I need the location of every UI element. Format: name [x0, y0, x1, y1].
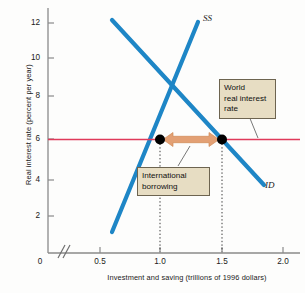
origin-label: 0: [33, 257, 47, 266]
investment-point-marker: [217, 135, 227, 145]
international-borrowing-arrow: [163, 133, 219, 147]
x-tick-label-0-5: 0.5: [87, 257, 113, 266]
y-tick-label-12: 12: [24, 18, 40, 27]
x-axis-title: Investment and saving (trillions of 1996…: [72, 273, 302, 282]
supply-curve-label: SS: [203, 13, 212, 23]
y-axis-ticks: [48, 23, 54, 216]
demand-curve-label: ID: [265, 180, 275, 190]
x-tick-label-1-0: 1.0: [147, 257, 173, 266]
saving-point-marker: [155, 135, 165, 145]
figure-container: Real interest rate (percent per year) In…: [0, 0, 305, 293]
x-axis-break-icon: [58, 245, 70, 258]
world-callout-line-1: World: [224, 83, 271, 94]
x-axis-ticks: [100, 247, 283, 253]
borrowing-callout-line-1: International: [142, 171, 205, 182]
world-rate-leader-line: [249, 116, 258, 138]
world-callout-line-3: rate: [224, 104, 271, 115]
chart-plot-area: [0, 0, 305, 293]
world-real-interest-rate-callout: World real interest rate: [219, 79, 276, 119]
x-tick-label-2-0: 2.0: [270, 257, 296, 266]
y-tick-label-8: 8: [24, 91, 40, 100]
saving-supply-curve: [112, 22, 198, 232]
borrowing-leader-line: [178, 146, 190, 166]
world-callout-line-2: real interest: [224, 94, 271, 105]
international-borrowing-callout: International borrowing: [137, 167, 210, 196]
borrowing-callout-line-2: borrowing: [142, 182, 205, 193]
y-tick-label-6: 6: [24, 134, 40, 143]
y-tick-label-10: 10: [24, 53, 40, 62]
x-tick-label-1-5: 1.5: [209, 257, 235, 266]
y-tick-label-4: 4: [24, 175, 40, 184]
y-tick-label-2: 2: [24, 211, 40, 220]
